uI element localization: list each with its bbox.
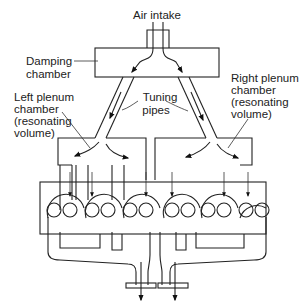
label-right-plenum-3: (resonating [231,96,289,108]
label-left-plenum-4: volume) [14,127,55,139]
cylinder-3 [123,194,160,218]
exhaust-manifold-left [48,217,156,300]
label-left-plenum-3: (resonating [14,115,72,127]
label-right-plenum-4: volume) [231,108,272,120]
damping-flow-arrows [132,48,182,72]
exhaust-manifold-right [158,217,266,300]
label-damping-chamber-2: chamber [26,68,71,80]
cylinder-4 [163,194,200,218]
label-left-plenum-2: chamber [14,103,59,115]
right-plenum-chamber [155,138,252,180]
right-tuning-pipe [178,77,217,138]
label-damping-chamber-1: Damping [26,55,72,67]
air-intake-duct [147,22,169,48]
label-tuning-pipes-1: Tuning [143,91,178,103]
cylinder-2 [85,194,122,218]
cylinder-6 [239,203,269,218]
label-tuning-pipes-2: pipes [142,104,170,116]
cylinder-1 [47,194,84,218]
damping-chamber [95,48,219,77]
label-air-intake: Air intake [133,9,181,21]
intake-system-diagram: Air intake Damping chamber Tuning pipes … [0,0,301,304]
label-right-plenum-1: Right plenum [231,72,299,84]
cylinder-ports [47,194,269,218]
cylinder-5 [201,194,238,218]
label-right-plenum-2: chamber [231,84,276,96]
label-left-plenum-1: Left plenum [14,91,74,103]
left-plenum-chamber [58,138,146,180]
